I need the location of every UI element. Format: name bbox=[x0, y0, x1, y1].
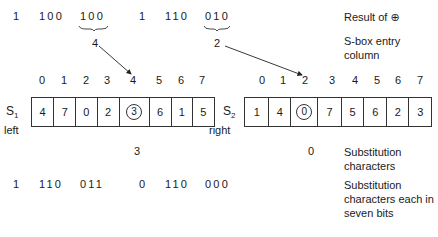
arrow-to-s1-col-4 bbox=[99, 46, 131, 74]
arrows-and-braces bbox=[0, 0, 438, 237]
brace-right bbox=[204, 26, 230, 31]
arrow-to-s2-col-2 bbox=[225, 46, 302, 75]
brace-left bbox=[79, 26, 108, 31]
